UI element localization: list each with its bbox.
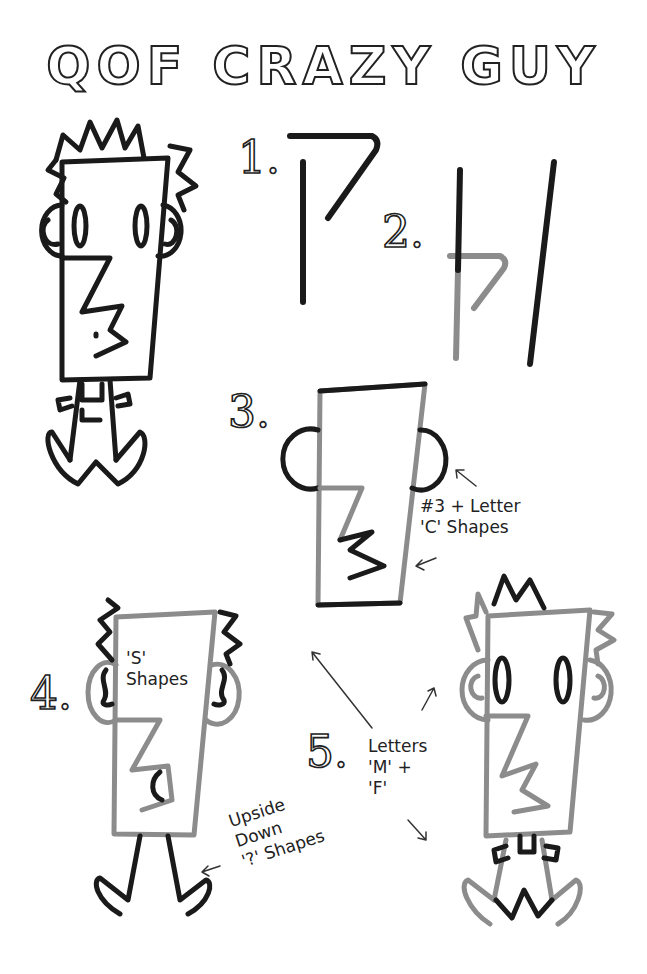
drawing-canvas (0, 0, 647, 974)
step-number-5: 5. (306, 726, 348, 777)
step-3-drawing (283, 384, 446, 605)
step-number-2: 2. (382, 206, 424, 257)
step-5-label: Letters 'M' + 'F' (368, 736, 427, 799)
step-2-drawing (450, 162, 554, 364)
step-number-4: 4. (30, 668, 72, 719)
finished-guy (42, 120, 196, 484)
step-4-s-shapes-label: 'S' Shapes (126, 648, 188, 690)
step-3-label: #3 + Letter 'C' Shapes (420, 496, 521, 538)
step-number-3: 3. (228, 386, 270, 437)
step-number-1: 1. (238, 132, 280, 183)
step-1-drawing (290, 136, 377, 302)
step-5-drawing (462, 576, 614, 924)
